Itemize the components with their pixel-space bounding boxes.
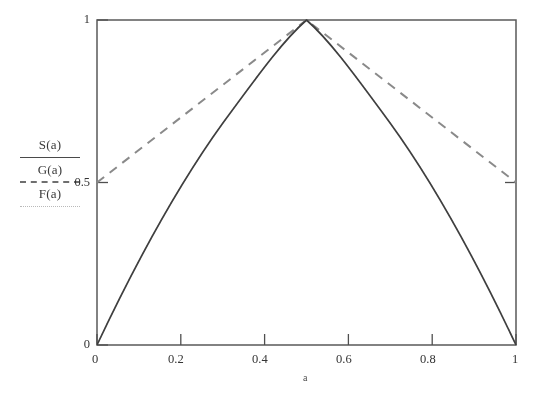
solid-line-icon	[20, 152, 80, 163]
plot-frame	[97, 20, 516, 345]
x-tick-label-0: 0	[92, 352, 98, 367]
series-g-curve	[97, 20, 516, 183]
x-tick-label-0-2: 0.2	[168, 352, 184, 367]
legend-item-label-g: G(a)	[38, 163, 63, 177]
figure-container: S(a) G(a) F(a)	[0, 0, 551, 400]
legend-item-label-s: S(a)	[39, 138, 61, 152]
x-tick-label-0-6: 0.6	[336, 352, 352, 367]
dotted-line-icon	[20, 201, 80, 212]
y-tick-label-0-5: 0.5	[62, 175, 90, 190]
y-tick-label-0: 0	[70, 337, 90, 352]
legend-item-label-f: F(a)	[39, 187, 61, 201]
series-s-curve	[97, 20, 516, 345]
y-tick-label-1: 1	[70, 12, 90, 27]
x-axis-label: a	[303, 372, 307, 383]
x-tick-label-1: 1	[512, 352, 518, 367]
x-tick-label-0-8: 0.8	[420, 352, 436, 367]
series-f-curve	[97, 20, 516, 345]
y-axis-ticks	[97, 20, 516, 345]
x-tick-label-0-4: 0.4	[252, 352, 268, 367]
x-axis-ticks	[97, 334, 516, 345]
